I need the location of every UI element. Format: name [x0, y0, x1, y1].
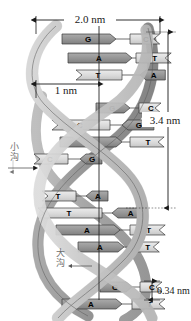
minor-groove-annotation: 小沟	[8, 142, 34, 172]
base-label-left: T	[67, 209, 72, 218]
base-label-right: C	[148, 104, 154, 113]
base-pair: AT	[56, 225, 165, 235]
minor-groove-label: 小沟	[9, 142, 19, 162]
dna-diagram-canvas: GCATTAGCCGATCGTATAATATGCAT 2.0 nm 1 nm 3…	[0, 0, 191, 321]
rise-label: 0.34 nm	[157, 285, 190, 296]
base-label-right: T	[146, 138, 151, 147]
base-label-left: A	[97, 243, 103, 252]
base-label-left: T	[96, 71, 101, 80]
dna-helix-figure: GCATTAGCCGATCGTATAATATGCAT 2.0 nm 1 nm 3…	[0, 0, 191, 321]
base-pair: TA	[38, 208, 147, 218]
major-groove-label: 大沟	[55, 247, 65, 268]
base-label-right: T	[145, 243, 150, 252]
base-label-left: A	[84, 226, 90, 235]
base-pair: AT	[68, 53, 171, 63]
base-label-right: A	[95, 192, 101, 201]
pitch-label: 3.4 nm	[150, 114, 181, 126]
base-pair: AT	[78, 242, 159, 252]
base-label-right: A	[128, 209, 134, 218]
base-label-left: G	[85, 35, 91, 44]
base-label-right: G	[136, 121, 142, 130]
width-label: 2.0 nm	[75, 13, 106, 25]
inner-width-label: 1 nm	[55, 84, 78, 96]
base-label-left: A	[88, 300, 94, 309]
